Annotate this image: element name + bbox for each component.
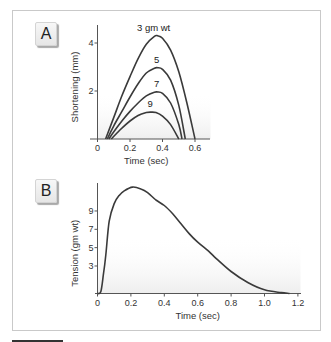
y-tick-label: 3	[88, 261, 93, 271]
chart-canvas: 00.20.40.624Time (sec)Shortening (mm)3 g…	[0, 0, 331, 342]
series-label: 5	[154, 54, 159, 65]
x-tick-label: 0	[95, 143, 100, 153]
y-tick-label: 7	[88, 224, 93, 234]
series-label: 7	[154, 78, 159, 89]
y-tick-label: 9	[88, 206, 93, 216]
x-axis-title: Time (sec)	[124, 155, 169, 166]
x-tick-label: 0.4	[156, 143, 169, 153]
y-tick-label: 5	[88, 243, 93, 253]
x-tick-label: 0.2	[125, 298, 138, 308]
panel-a-chart: 00.20.40.624Time (sec)Shortening (mm)3 g…	[69, 22, 211, 166]
y-axis-title: Shortening (mm)	[69, 52, 80, 123]
x-tick-label: 0.8	[225, 298, 238, 308]
x-tick-label: 0.6	[191, 298, 204, 308]
x-tick-label: 0	[95, 298, 100, 308]
x-tick-label: 1.0	[258, 298, 271, 308]
x-axis-title: Time (sec)	[175, 310, 220, 321]
y-axis-title: Tension (gm wt)	[69, 220, 80, 287]
y-tick-label: 2	[88, 86, 93, 96]
plot-background	[98, 236, 301, 293]
y-tick-label: 4	[88, 38, 93, 48]
series-label: 9	[147, 98, 152, 109]
series-label: 3 gm wt	[137, 22, 171, 33]
x-tick-label: 0.2	[124, 143, 137, 153]
x-tick-label: 1.2	[292, 298, 305, 308]
footer-rule	[12, 340, 63, 342]
x-tick-label: 0.6	[189, 143, 202, 153]
x-tick-label: 0.4	[158, 298, 171, 308]
panel-b-chart: 00.20.40.60.81.01.23579Time (sec)Tension…	[69, 183, 305, 321]
